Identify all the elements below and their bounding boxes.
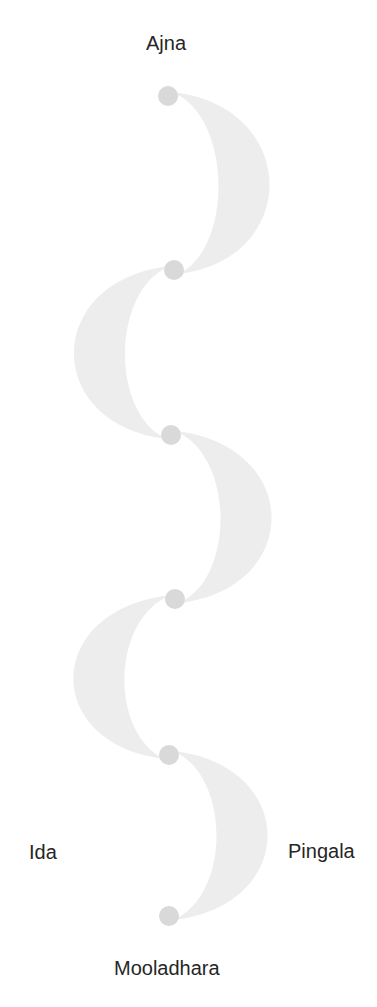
chakra-node (161, 425, 181, 445)
nadi-crescent-right (172, 92, 270, 274)
chakra-node (158, 86, 178, 106)
chakra-node (164, 260, 184, 280)
nadi-crescent-right (175, 431, 272, 603)
chakra-node (165, 589, 185, 609)
crescent-group (73, 92, 271, 920)
nadi-crescent-right (173, 751, 268, 920)
label-pingala: Pingala (288, 841, 355, 861)
nadi-crescent-left (73, 595, 171, 759)
chakra-node (159, 745, 179, 765)
chakra-node-group (158, 86, 185, 926)
chakra-node (159, 906, 179, 926)
nadi-crescent-left (74, 266, 170, 439)
label-ida: Ida (29, 842, 57, 862)
label-ajna: Ajna (146, 33, 186, 53)
label-mooladhara: Mooladhara (114, 958, 220, 978)
